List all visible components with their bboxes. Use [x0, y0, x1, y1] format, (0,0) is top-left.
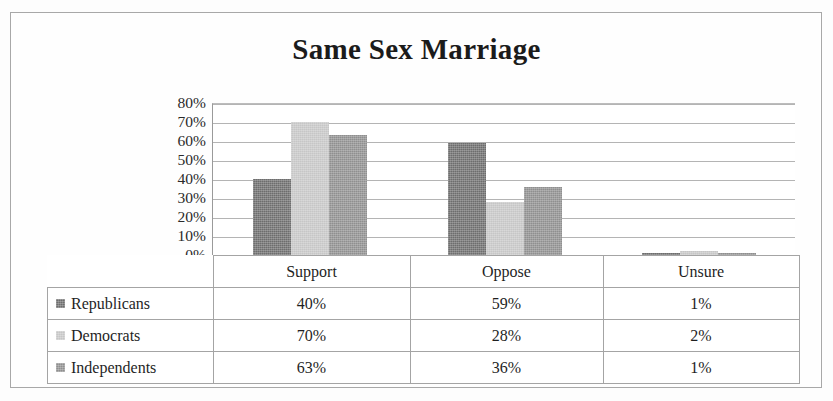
y-tick-label-80: 80% — [178, 95, 206, 111]
y-tick-label-20: 20% — [178, 209, 206, 225]
bar-group-unsure — [642, 103, 756, 255]
table-cell-independents-oppose: 36% — [410, 352, 603, 384]
y-tick-label-30: 30% — [178, 190, 206, 206]
bar-independents-support — [329, 135, 367, 255]
chart-image: Same Sex Marriage 80%70%60%50%40%30%20%1… — [0, 0, 833, 401]
table-cell-democrats-oppose: 28% — [410, 320, 603, 352]
legend-item-label: Independents — [71, 359, 156, 376]
legend-swatch-icon-republicans — [56, 299, 65, 308]
table-cell-republicans-unsure: 1% — [603, 288, 799, 320]
table-column-header-unsure: Unsure — [603, 256, 799, 288]
plot-area — [212, 103, 795, 255]
legend-item-independents: Independents — [48, 352, 214, 384]
table-cell-independents-unsure: 1% — [603, 352, 799, 384]
legend-item-label: Democrats — [71, 327, 140, 344]
bar-democrats-support — [291, 122, 329, 255]
chart-title: Same Sex Marriage — [0, 33, 833, 66]
legend-item-republicans: Republicans — [48, 288, 214, 320]
bar-group-oppose — [448, 103, 562, 255]
legend-item-label: Republicans — [71, 295, 150, 312]
bar-democrats-oppose — [486, 202, 524, 255]
bar-group-support — [253, 103, 367, 255]
table-cell-democrats-unsure: 2% — [603, 320, 799, 352]
y-tick-label-50: 50% — [178, 152, 206, 168]
legend-item-democrats: Democrats — [48, 320, 214, 352]
legend-swatch-icon-independents — [56, 363, 65, 372]
y-tick-label-60: 60% — [178, 133, 206, 149]
legend-swatch-icon-democrats — [56, 331, 65, 340]
y-tick-label-40: 40% — [178, 171, 206, 187]
table-corner-cell — [48, 256, 214, 288]
table-header-row: SupportOpposeUnsure — [48, 256, 800, 288]
table-cell-republicans-oppose: 59% — [410, 288, 603, 320]
data-table: SupportOpposeUnsureRepublicans40%59%1%De… — [47, 255, 800, 384]
table-cell-independents-support: 63% — [213, 352, 410, 384]
table-row: Republicans40%59%1% — [48, 288, 800, 320]
y-axis-tick-labels: 80%70%60%50%40%30%20%10%0% — [140, 95, 206, 265]
table-row: Democrats70%28%2% — [48, 320, 800, 352]
plot-area-wrapper — [212, 103, 795, 255]
y-tick-label-10: 10% — [178, 228, 206, 244]
table-cell-democrats-support: 70% — [213, 320, 410, 352]
y-tick-label-70: 70% — [178, 114, 206, 130]
table-column-header-support: Support — [213, 256, 410, 288]
data-table-body: SupportOpposeUnsureRepublicans40%59%1%De… — [48, 256, 800, 384]
table-column-header-oppose: Oppose — [410, 256, 603, 288]
table-row: Independents63%36%1% — [48, 352, 800, 384]
table-cell-republicans-support: 40% — [213, 288, 410, 320]
bar-independents-oppose — [524, 187, 562, 255]
bar-republicans-support — [253, 179, 291, 255]
bar-republicans-oppose — [448, 143, 486, 255]
